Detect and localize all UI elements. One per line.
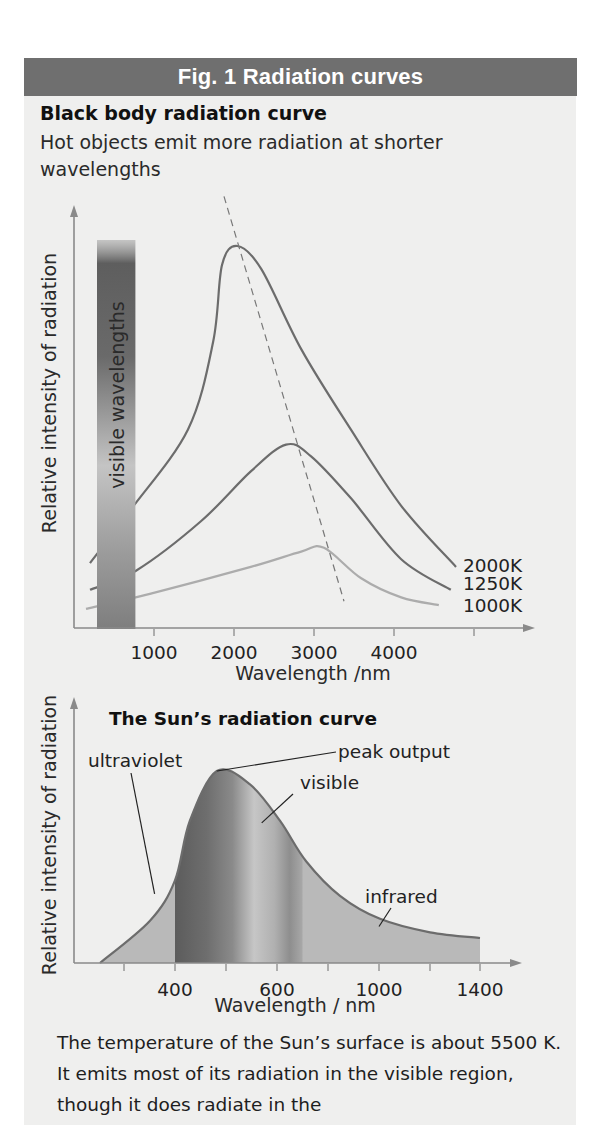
black-body-chart: 2000K1250K1000Kvisible wavelengths 10002… xyxy=(38,196,535,684)
series-label-1000k: 1000K xyxy=(463,595,523,616)
y-axis-arrow-icon xyxy=(70,205,78,217)
curve-2000k xyxy=(90,246,456,567)
curve-1250k xyxy=(90,444,451,590)
x-axis-label: Wavelength /nm xyxy=(235,662,391,684)
x-tick-label: 3000 xyxy=(290,642,337,663)
x-tick-label: 1000 xyxy=(130,642,177,663)
sun-x-axis-arrow-icon xyxy=(510,959,522,967)
sun-radiation-chart: The Sun’s radiation curve 40060010001400… xyxy=(38,695,522,1016)
sun-y-axis-label: Relative intensity of radiation xyxy=(38,695,60,975)
annotation-ultraviolet: ultraviolet xyxy=(88,750,182,771)
charts-canvas: 2000K1250K1000Kvisible wavelengths 10002… xyxy=(0,0,600,1125)
sun-visible-region xyxy=(175,761,303,963)
annotation-leader-peak-output xyxy=(217,752,336,771)
sun-y-axis-arrow-icon xyxy=(70,697,78,709)
visible-wavelengths-label: visible wavelengths xyxy=(106,301,128,488)
annotation-peak-output: peak output xyxy=(338,741,450,762)
annotation-infrared: infrared xyxy=(365,886,438,907)
x-axis-arrow-icon xyxy=(523,624,535,632)
y-axis-label: Relative intensity of radiation xyxy=(38,253,60,533)
sun-x-tick-label: 1400 xyxy=(456,979,503,1000)
series-label-1250k: 1250K xyxy=(463,573,523,594)
sun-chart-title: The Sun’s radiation curve xyxy=(109,708,377,729)
x-tick-label: 2000 xyxy=(210,642,257,663)
annotation-leader-ultraviolet xyxy=(131,773,155,894)
curve-1000k xyxy=(86,546,439,609)
peak-wavelength-dashed-line xyxy=(224,196,344,601)
sun-x-axis-label: Wavelength / nm xyxy=(214,994,376,1016)
x-tick-label: 4000 xyxy=(370,642,417,663)
body-paragraph: The temperature of the Sun’s surface is … xyxy=(57,1027,577,1120)
sun-x-tick-label: 400 xyxy=(157,979,192,1000)
annotation-visible: visible xyxy=(300,772,359,793)
